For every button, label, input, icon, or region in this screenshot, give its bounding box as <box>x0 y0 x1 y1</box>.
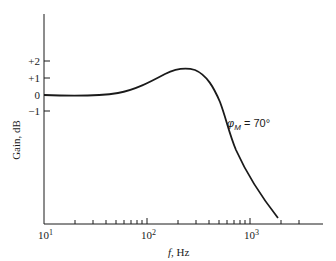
ytick-plus2: +2 <box>28 55 40 67</box>
y-axis-label: Gain, dB <box>10 120 22 160</box>
xtick-10-2: 102 <box>141 228 156 241</box>
gain-chart: +2 +1 0 −1 Gain, dB 101 102 103 <box>0 0 336 261</box>
xtick-10-3: 103 <box>244 228 259 241</box>
ytick-zero: 0 <box>35 89 41 101</box>
ytick-plus1: +1 <box>28 72 40 84</box>
phase-margin-annotation: φM = 70° <box>227 117 270 132</box>
gain-curve <box>44 69 278 218</box>
x-axis-label: f, Hz <box>168 246 190 258</box>
xtick-10-1: 101 <box>38 228 53 241</box>
y-ticks <box>44 61 50 111</box>
x-ticks <box>75 218 299 224</box>
ytick-minus1: −1 <box>28 105 40 117</box>
